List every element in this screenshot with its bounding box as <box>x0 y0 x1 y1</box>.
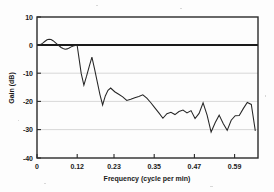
ytick-label-0: 0 <box>29 42 33 49</box>
gain-frequency-plot: 10 0 -10 -20 -30 -40 0 0.12 0.23 0.35 0.… <box>0 0 274 192</box>
x-axis-tick-labels: 0 0.12 0.23 0.35 0.47 0.59 <box>35 163 241 170</box>
ytick-label-minus10: -10 <box>23 70 33 77</box>
ytick-label-minus30: -30 <box>23 126 33 133</box>
xtick-label-012: 0.12 <box>70 163 84 170</box>
xtick-label-059: 0.59 <box>228 163 242 170</box>
xtick-label-047: 0.47 <box>188 163 202 170</box>
ytick-label-minus20: -20 <box>23 98 33 105</box>
xtick-label-035: 0.35 <box>147 163 161 170</box>
xtick-label-0: 0 <box>35 163 39 170</box>
chart-figure: 10 0 -10 -20 -30 -40 0 0.12 0.23 0.35 0.… <box>0 0 274 192</box>
plot-frame <box>37 17 258 158</box>
x-axis-title: Frequency (cycle per min) <box>104 175 191 183</box>
y-axis-tick-labels: 10 0 -10 -20 -30 -40 <box>23 14 33 162</box>
xtick-label-023: 0.23 <box>107 163 121 170</box>
gridlines <box>37 73 258 129</box>
y-axis-title: Gain (dB) <box>8 72 16 104</box>
scan-speckles <box>18 5 266 187</box>
gain-response-trace <box>37 39 255 132</box>
ytick-label-minus40: -40 <box>23 155 33 162</box>
ytick-label-10: 10 <box>25 14 33 21</box>
